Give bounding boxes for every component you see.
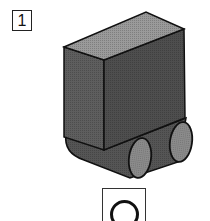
circle-symbol-icon [110, 200, 139, 221]
answer-box [102, 188, 146, 221]
